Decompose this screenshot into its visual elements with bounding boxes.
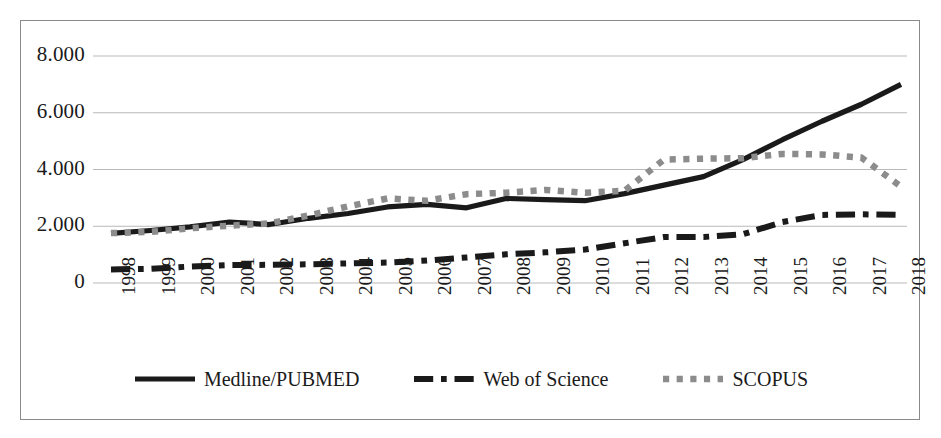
x-tick-label: 2009 — [553, 257, 575, 295]
y-tick-label: 8.000 — [21, 42, 85, 67]
y-tick-label: 0 — [21, 269, 85, 294]
x-tick-label: 2004 — [355, 257, 377, 295]
legend-swatch-dash-dot-icon — [413, 372, 475, 386]
y-tick-label: 2.000 — [21, 212, 85, 237]
x-tick-label: 1999 — [158, 257, 180, 295]
x-tick-label: 1998 — [118, 257, 140, 295]
legend-label: SCOPUS — [732, 368, 808, 391]
chart-legend: Medline/PUBMEDWeb of ScienceSCOPUS — [21, 359, 921, 399]
legend-swatch-solid-icon — [134, 372, 196, 386]
y-tick-label: 6.000 — [21, 99, 85, 124]
legend-item-0[interactable]: Medline/PUBMED — [134, 368, 360, 391]
series-line-0 — [111, 84, 901, 233]
x-tick-label: 2015 — [790, 257, 812, 295]
legend-label: Medline/PUBMED — [204, 368, 360, 391]
x-tick-label: 2000 — [197, 257, 219, 295]
x-tick-label: 2007 — [474, 257, 496, 295]
x-tick-label: 2016 — [829, 257, 851, 295]
y-tick-label: 4.000 — [21, 156, 85, 181]
x-tick-label: 2010 — [592, 257, 614, 295]
x-tick-label: 2011 — [632, 258, 654, 295]
x-tick-label: 2003 — [316, 257, 338, 295]
x-tick-label: 2017 — [869, 257, 891, 295]
legend-swatch-dotted-icon — [662, 372, 724, 386]
x-tick-label: 2008 — [513, 257, 535, 295]
x-tick-label: 2002 — [276, 257, 298, 295]
x-tick-label: 2012 — [671, 257, 693, 295]
x-tick-label: 2018 — [908, 257, 930, 295]
x-tick-label: 2013 — [711, 257, 733, 295]
x-tick-label: 2014 — [750, 257, 772, 295]
legend-item-1[interactable]: Web of Science — [413, 368, 608, 391]
x-tick-label: 2001 — [237, 257, 259, 295]
legend-item-2[interactable]: SCOPUS — [662, 368, 808, 391]
x-tick-label: 2006 — [434, 257, 456, 295]
x-tick-label: 2005 — [395, 257, 417, 295]
chart-figure: 02.0004.0006.0008.000 199819992000200120… — [20, 20, 920, 420]
legend-label: Web of Science — [483, 368, 608, 391]
